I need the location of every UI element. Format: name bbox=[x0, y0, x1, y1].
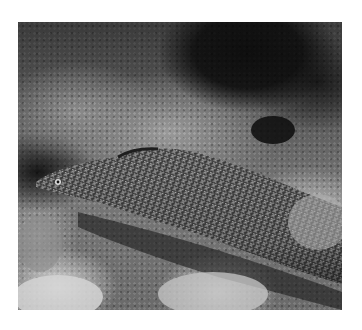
eel-photograph bbox=[18, 22, 342, 310]
moray-eel bbox=[18, 22, 342, 310]
